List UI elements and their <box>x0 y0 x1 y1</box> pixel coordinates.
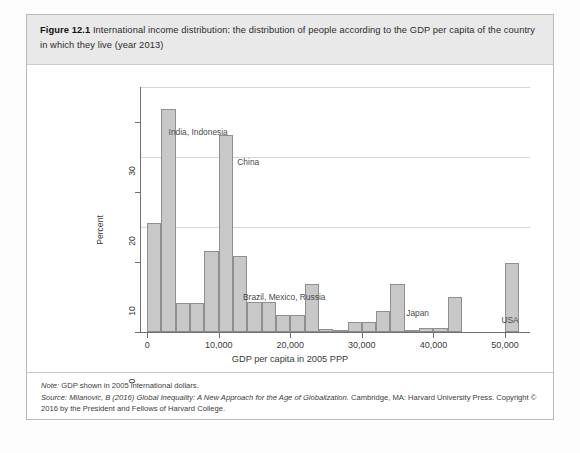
figure-number: Figure 12.1 <box>40 25 90 35</box>
source-title: Global Inequality: A New Approach for th… <box>136 393 348 402</box>
bar <box>262 302 276 332</box>
note-label: Note: <box>41 381 59 390</box>
chart-annotation: USA <box>501 315 518 325</box>
bar <box>390 284 404 332</box>
bar <box>319 329 333 333</box>
bar <box>419 328 433 332</box>
bar <box>448 297 462 332</box>
figure-notes: Note: GDP shown in 2005 international do… <box>27 372 553 420</box>
bars-layer <box>140 87 530 332</box>
note-line: Note: GDP shown in 2005 international do… <box>41 380 539 392</box>
bar <box>161 109 175 332</box>
x-tick <box>290 333 291 338</box>
bar <box>362 322 376 333</box>
source-label: Source: <box>41 393 67 402</box>
bar <box>376 311 390 332</box>
x-tick-label: 30,000 <box>348 340 376 350</box>
bar <box>405 330 419 332</box>
x-axis-title: GDP per capita in 2005 PPP <box>27 354 553 364</box>
bar <box>219 135 233 332</box>
x-tick-label: 10,000 <box>205 340 233 350</box>
chart-annotation: India, Indonesia <box>169 127 228 137</box>
x-tick <box>219 333 220 338</box>
figure-caption-band: Figure 12.1 International income distrib… <box>27 15 553 65</box>
bar <box>204 251 218 332</box>
x-tick-label: 40,000 <box>420 340 448 350</box>
bar <box>176 303 190 332</box>
source-author: Milanovic, B (2016) <box>69 393 134 402</box>
chart-annotation: China <box>237 157 259 167</box>
note-text: GDP shown in 2005 international dollars. <box>61 381 198 390</box>
figure-page: Figure 12.1 International income distrib… <box>0 0 580 453</box>
x-tick <box>147 333 148 338</box>
y-axis-title: Percent <box>95 215 105 245</box>
chart-plot: 0102030 010,00020,00030,00040,00050,000 … <box>27 65 553 372</box>
bar <box>348 322 362 333</box>
bar <box>290 315 304 332</box>
figure-caption: Figure 12.1 International income distrib… <box>40 23 540 53</box>
y-tick-label: 30 <box>127 121 137 221</box>
figure-caption-text: International income distribution: the d… <box>40 25 535 50</box>
source-line: Source: Milanovic, B (2016) Global Inequ… <box>41 392 539 415</box>
bar <box>333 330 347 332</box>
chart-annotation: Brazil, Mexico, Russia <box>243 292 325 302</box>
x-tick <box>505 333 506 338</box>
bar <box>433 328 447 332</box>
x-tick-label: 0 <box>145 340 150 350</box>
x-tick <box>362 333 363 338</box>
bar <box>147 223 161 332</box>
x-tick <box>433 333 434 338</box>
x-axis-line <box>140 332 530 333</box>
bar <box>247 302 261 332</box>
bar <box>305 284 319 332</box>
bar <box>276 315 290 332</box>
x-tick-label: 20,000 <box>277 340 305 350</box>
chart-annotation: Japan <box>406 308 429 318</box>
bar <box>190 303 204 332</box>
x-tick-label: 50,000 <box>491 340 519 350</box>
figure-container: Figure 12.1 International income distrib… <box>26 14 554 420</box>
